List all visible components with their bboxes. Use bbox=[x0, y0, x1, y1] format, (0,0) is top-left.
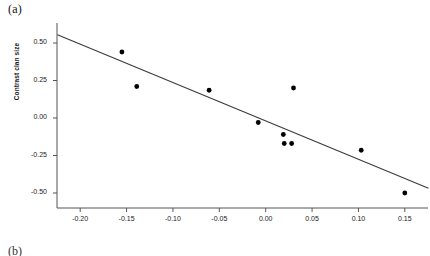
y-axis-tick-label: 0.50 bbox=[11, 38, 47, 45]
figure-panel-a: (a) Contrast clan size 0.500.250.00-0.25… bbox=[0, 0, 430, 256]
data-point bbox=[281, 132, 286, 137]
x-axis-tick-label: 0.00 bbox=[246, 215, 286, 222]
axis-spines bbox=[57, 23, 428, 208]
data-point bbox=[402, 191, 407, 196]
y-axis-tick-label: -0.25 bbox=[11, 151, 47, 158]
data-point bbox=[207, 88, 212, 93]
data-point bbox=[291, 86, 296, 91]
x-axis-tick-label: -0.10 bbox=[153, 215, 193, 222]
y-axis-tick-label: 0.00 bbox=[11, 113, 47, 120]
x-axis-tick-label: -0.05 bbox=[199, 215, 239, 222]
y-axis-tick-label: 0.25 bbox=[11, 76, 47, 83]
x-axis-tick-label: -0.20 bbox=[60, 215, 100, 222]
data-point bbox=[289, 141, 294, 146]
x-axis-tick-label: -0.15 bbox=[107, 215, 147, 222]
data-point bbox=[359, 148, 364, 153]
data-point bbox=[282, 141, 287, 146]
x-axis-tick-label: 0.05 bbox=[292, 215, 332, 222]
x-axis-tick-label: 0.15 bbox=[385, 215, 425, 222]
data-point bbox=[120, 50, 125, 55]
y-axis-tick-label: -0.50 bbox=[11, 188, 47, 195]
next-panel-label: (b) bbox=[8, 244, 22, 256]
data-point bbox=[256, 120, 261, 125]
data-point bbox=[134, 84, 139, 89]
regression-line bbox=[57, 35, 428, 188]
x-axis-tick-label: 0.10 bbox=[338, 215, 378, 222]
